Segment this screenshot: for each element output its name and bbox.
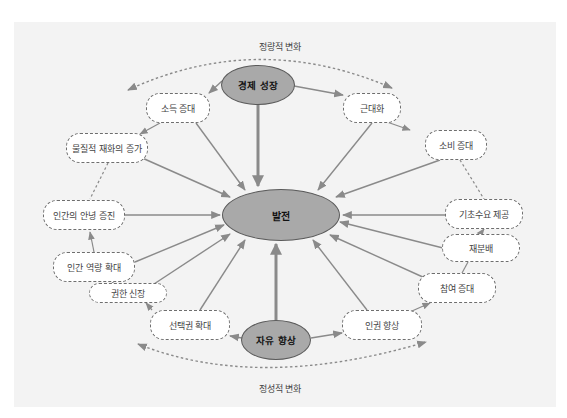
node-participation-increase: 참여 증대: [418, 273, 496, 303]
development-center: 발전: [222, 189, 340, 241]
node-consumption-increase: 소비 증대: [425, 130, 487, 160]
node-empowerment: 권한 신장: [89, 283, 167, 303]
node-redistribution: 재분배: [442, 234, 520, 262]
quantitative-change-label: 정량적 변화: [259, 40, 302, 53]
node-income-increase: 소득 증대: [146, 93, 210, 123]
node-basic-needs-provision: 기초수요 제공: [445, 199, 523, 229]
node-wellbeing-promotion: 인간의 안녕 증진: [43, 200, 125, 230]
node-human-rights-improvement: 인권 향상: [342, 310, 422, 340]
economic-growth-hub: 경제 성장: [221, 65, 295, 105]
node-modernization: 근대화: [343, 93, 401, 123]
node-choice-expansion: 선택권 확대: [150, 310, 230, 340]
qualitative-change-label: 정성적 변화: [259, 382, 302, 395]
node-capability-expansion: 인간 역량 확대: [53, 252, 135, 282]
node-material-goods-increase: 물질적 재화의 증가: [66, 133, 148, 163]
freedom-improvement-hub: 자유 향상: [241, 320, 311, 360]
